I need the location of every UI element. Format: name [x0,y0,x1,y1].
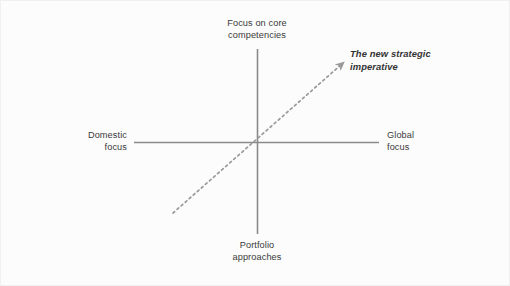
annotation-new-strategic-imperative: The new strategic imperative [350,48,480,73]
axis-label-focus-on-core-competencies: Focus on core competencies [187,17,327,42]
axis-label-global-focus: Global focus [387,129,495,154]
axis-label-portfolio-approaches: Portfolio approaches [187,239,327,264]
strategic-matrix-figure: Focus on core competencies Portfolio app… [0,0,510,286]
axis-label-domestic-focus: Domestic focus [19,129,127,154]
